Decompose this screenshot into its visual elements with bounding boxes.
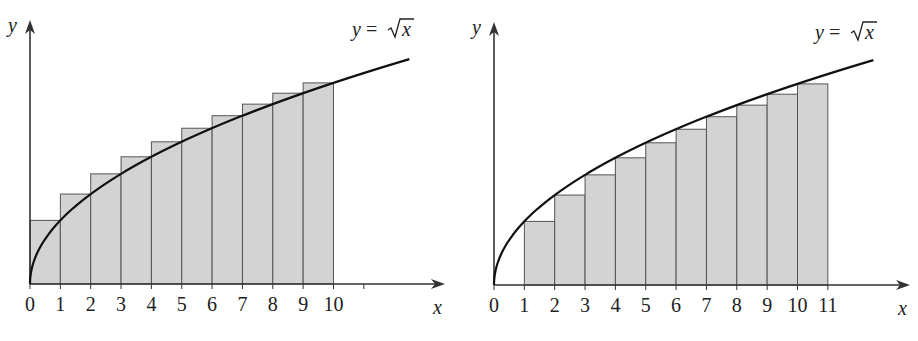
x-tick-label: 5	[641, 294, 651, 316]
x-tick-label: 10	[324, 293, 344, 315]
bar-5	[646, 143, 676, 285]
x-tick-label: 7	[237, 293, 247, 315]
x-axis-label: x	[432, 296, 442, 318]
curve-label: y = x	[350, 18, 414, 41]
x-tick-label: 10	[788, 294, 808, 316]
bar-8	[737, 105, 767, 285]
bar-10	[798, 84, 828, 285]
bar-3	[585, 175, 615, 285]
curve-label: y = x	[813, 21, 877, 44]
svg-text:y =: y =	[350, 18, 377, 41]
svg-text:x: x	[401, 18, 411, 40]
x-tick-label: 9	[298, 293, 308, 315]
x-tick-label: 0	[25, 293, 35, 315]
bar-10	[303, 83, 333, 284]
bar-2	[60, 194, 90, 284]
x-axis-label: x	[897, 297, 907, 319]
x-tick-label: 7	[701, 294, 711, 316]
y-axis-label: y	[470, 16, 481, 39]
bar-5	[151, 142, 181, 284]
bar-7	[706, 117, 736, 285]
x-tick-label: 11	[818, 294, 837, 316]
x-tick-label: 6	[207, 293, 217, 315]
bar-9	[767, 94, 797, 285]
x-tick-label: 2	[550, 294, 560, 316]
right-chart-left-endpoint: 01234567891011yxy = x	[470, 16, 910, 319]
x-tick-label: 3	[580, 294, 590, 316]
x-tick-label: 6	[671, 294, 681, 316]
riemann-sum-figure: 012345678910yxy = x 01234567891011yxy = …	[0, 0, 918, 341]
x-tick-label: 0	[489, 294, 499, 316]
x-tick-label: 4	[610, 294, 620, 316]
x-tick-label: 8	[268, 293, 278, 315]
bar-4	[121, 157, 151, 284]
bar-7	[212, 116, 242, 284]
bar-6	[676, 129, 706, 285]
y-axis-label: y	[6, 14, 17, 37]
bar-8	[242, 104, 272, 284]
x-tick-label: 1	[55, 293, 65, 315]
x-tick-label: 1	[519, 294, 529, 316]
x-tick-label: 9	[762, 294, 772, 316]
x-tick-label: 3	[116, 293, 126, 315]
x-tick-label: 8	[732, 294, 742, 316]
svg-text:x: x	[864, 21, 874, 43]
left-chart-right-endpoint: 012345678910yxy = x	[6, 14, 445, 318]
bar-4	[615, 158, 645, 285]
bar-1	[30, 220, 60, 284]
x-tick-label: 5	[177, 293, 187, 315]
bar-1	[524, 221, 554, 285]
bar-2	[555, 195, 585, 285]
x-tick-label: 4	[146, 293, 156, 315]
svg-text:y =: y =	[813, 21, 840, 44]
bar-9	[273, 93, 303, 284]
bar-6	[182, 128, 212, 284]
x-tick-label: 2	[86, 293, 96, 315]
